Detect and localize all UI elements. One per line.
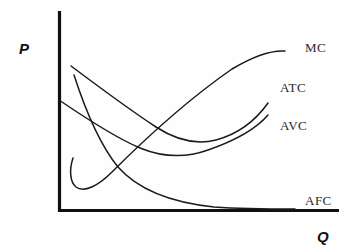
y-axis-label: P: [19, 40, 29, 57]
x-axis-label: Q: [317, 228, 329, 245]
curve-label-mc: MC: [305, 40, 326, 56]
curve-label-afc: AFC: [305, 193, 332, 209]
curves-group: [59, 51, 295, 209]
curve-atc: [71, 66, 268, 142]
curve-label-atc: ATC: [280, 80, 306, 96]
curve-label-avc: AVC: [280, 118, 307, 134]
curve-avc: [59, 100, 268, 155]
cost-curve-figure: MC ATC AVC AFC P Q: [0, 0, 349, 251]
curve-afc: [74, 75, 295, 209]
